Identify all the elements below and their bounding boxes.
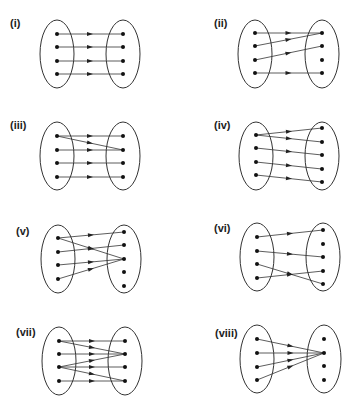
left-element-dot [57,365,61,369]
arrowhead-icon [286,163,292,168]
arrowhead-icon [87,45,93,49]
left-element-dot [57,379,61,383]
right-element-dot [320,167,324,171]
diagram-ii: (ii) [214,17,339,88]
right-element-dot [320,71,324,75]
diagram-i: (i) [10,17,140,88]
right-element-dot [122,270,126,274]
right-element-dot [121,148,125,152]
diagram-label: (iv) [214,119,231,131]
arrowhead-icon [286,136,292,141]
right-set-oval [106,122,140,190]
left-element-dot [254,160,258,164]
right-element-dot [121,134,125,138]
left-set-oval [42,327,76,395]
left-element-dot [255,262,259,266]
left-set-oval [240,223,274,291]
right-set-oval [106,20,140,88]
right-element-dot [122,284,126,288]
arrowhead-icon [287,231,293,236]
arrowhead-icon [285,50,292,55]
diagram-vii: (vii) [16,326,142,395]
arrowhead-icon [87,161,93,165]
right-element-dot [321,242,325,246]
arrowhead-icon [287,364,294,370]
arrowhead-icon [87,148,93,152]
left-element-dot [57,352,61,356]
left-element-dot [254,133,258,137]
arrowhead-icon [287,252,293,257]
right-element-dot [320,180,324,184]
left-element-dot [255,351,259,355]
left-element-dot [57,339,61,343]
arrowhead-icon [88,266,95,272]
right-set-oval [108,327,142,395]
left-set-oval [41,225,75,293]
arrowhead-icon [87,72,93,76]
arrowhead-icon [87,32,93,36]
right-element-dot [123,352,127,356]
diagram-vi: (vi) [214,222,340,291]
arrowhead-icon [286,129,292,134]
right-element-dot [322,364,326,368]
left-element-dot [56,277,60,281]
left-element-dot [55,134,59,138]
arrowhead-icon [287,343,294,348]
diagram-iii: (iii) [10,119,140,190]
arrowhead-icon [285,37,292,42]
diagram-iv: (iv) [214,119,339,190]
arrowhead-icon [89,365,95,369]
arrowhead-icon [286,176,292,181]
arrowhead-icon [288,351,294,355]
left-element-dot [253,31,257,35]
right-element-dot [123,339,127,343]
mapping-diagrams-canvas: (i)(ii)(iii)(iv)(v)(vi)(vii)(viii) [0,0,359,402]
diagram-label: (iii) [10,119,27,131]
right-element-dot [321,255,325,259]
left-set-oval [40,122,74,190]
right-element-dot [121,161,125,165]
left-set-oval [40,20,74,88]
right-element-dot [321,282,325,286]
arrowhead-icon [87,59,93,63]
arrowhead-icon [87,134,93,138]
arrowhead-icon [286,31,292,35]
arrowhead-icon [89,371,96,376]
diagram-label: (vii) [16,326,36,338]
right-element-dot [320,44,324,48]
right-element-dot [320,153,324,157]
arrowhead-icon [89,379,95,383]
right-set-oval [307,325,341,393]
diagram-label: (v) [16,225,30,237]
left-element-dot [254,173,258,177]
left-element-dot [55,175,59,179]
diagram-v: (v) [16,225,141,293]
right-element-dot [122,257,126,261]
right-element-dot [122,230,126,234]
arrowhead-icon [89,358,96,363]
left-element-dot [253,58,257,62]
left-element-dot [55,72,59,76]
right-element-dot [320,58,324,62]
left-element-dot [255,235,259,239]
right-element-dot [322,337,326,341]
arrowhead-icon [286,71,292,75]
diagram-label: (vi) [214,222,231,234]
left-element-dot [253,44,257,48]
left-element-dot [253,71,257,75]
diagram-label: (ii) [214,17,228,29]
arrowhead-icon [87,140,94,145]
arrowhead-icon [88,260,94,265]
left-set-oval [239,122,273,190]
right-element-dot [121,59,125,63]
left-set-oval [238,20,272,88]
left-element-dot [255,365,259,369]
arrowhead-icon [286,149,292,154]
right-set-oval [305,20,339,88]
right-element-dot [321,269,325,273]
right-element-dot [121,72,125,76]
arrowhead-icon [287,357,294,362]
right-element-dot [320,31,324,35]
right-element-dot [322,378,326,382]
left-set-oval [240,325,274,393]
